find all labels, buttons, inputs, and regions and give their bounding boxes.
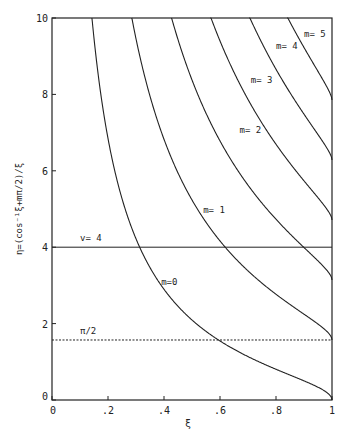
plot-frame [52,18,332,400]
x-tick-label: .8 [270,405,282,416]
y-axis-ticks: 0246810 [36,13,56,402]
y-tick-label: 4 [42,242,48,253]
curve-m3 [210,18,332,220]
chart: 0.2.4.6.81 0246810 v= 4π/2m=0m= 1m= 2m= … [0,0,345,438]
x-tick-label: 0 [50,405,56,416]
curve-label: m= 3 [251,75,273,85]
y-tick-label: 6 [42,166,48,177]
curve-label: m= 4 [276,41,298,51]
x-tick-label: .2 [102,405,114,416]
x-axis-ticks: 0.2.4.6.81 [50,396,335,416]
y-tick-label: 2 [42,319,48,330]
ref-label: π/2 [80,326,96,336]
curve-m2 [171,18,332,280]
ref-label: v= 4 [80,233,102,243]
x-tick-label: .4 [158,405,170,416]
x-tick-label: 1 [329,405,335,416]
curve-m4 [249,18,332,160]
curve-label: m= 5 [304,29,326,39]
y-tick-label: 8 [42,89,48,100]
curve-labels: v= 4π/2m=0m= 1m= 2m= 3m= 4m= 5 [80,29,326,336]
y-tick-label: 10 [36,13,48,24]
curve-label: m= 2 [240,125,262,135]
curve-label: m= 1 [203,205,225,215]
y-tick-label: 0 [42,391,48,402]
y-axis-label: η=(cos⁻¹ξ+mπ/2)/ξ [14,163,24,255]
curve-label: m=0 [161,277,177,287]
x-tick-label: .6 [214,405,226,416]
x-axis-label: ξ [185,418,191,429]
